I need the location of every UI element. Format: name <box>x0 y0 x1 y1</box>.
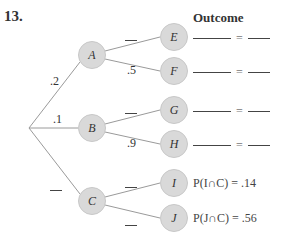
prob-B-H: .9 <box>127 136 136 151</box>
prob-A-E-blank[interactable] <box>125 40 137 41</box>
node-G: G <box>160 96 188 124</box>
node-B: B <box>78 114 106 142</box>
node-I: I <box>160 169 188 197</box>
branch-C-I <box>105 183 160 197</box>
node-A: A <box>78 41 106 69</box>
branch-C-J <box>105 205 160 218</box>
outcome-event-blank[interactable] <box>193 38 231 39</box>
outcome-row-J: P(J∩C) = .56 <box>193 211 257 226</box>
prob-root-A: .2 <box>50 74 59 89</box>
outcome-event-blank[interactable] <box>193 72 231 73</box>
equals-sign: = <box>236 138 243 153</box>
equals-sign: = <box>236 31 243 46</box>
outcome-event-blank[interactable] <box>193 145 231 146</box>
outcome-event-blank[interactable] <box>193 111 231 112</box>
node-J: J <box>160 204 188 232</box>
branch-root-C <box>29 128 80 194</box>
node-E: E <box>160 23 188 51</box>
prob-C-I-blank[interactable] <box>125 187 137 188</box>
node-C: C <box>78 187 106 215</box>
outcome-value-blank[interactable] <box>248 38 270 39</box>
equals-sign: = <box>236 104 243 119</box>
equals-sign: = <box>236 65 243 80</box>
outcome-value-blank[interactable] <box>248 111 270 112</box>
outcome-row-I: P(I∩C) = .14 <box>193 176 256 191</box>
outcome-value-blank[interactable] <box>248 145 270 146</box>
node-H: H <box>160 130 188 158</box>
prob-B-G-blank[interactable] <box>125 113 137 114</box>
outcome-value-blank[interactable] <box>248 72 270 73</box>
node-F: F <box>160 57 188 85</box>
prob-A-F: .5 <box>127 63 136 78</box>
prob-root-B: .1 <box>53 112 62 127</box>
prob-root-C-blank[interactable] <box>50 190 62 191</box>
prob-C-J-blank[interactable] <box>125 225 137 226</box>
